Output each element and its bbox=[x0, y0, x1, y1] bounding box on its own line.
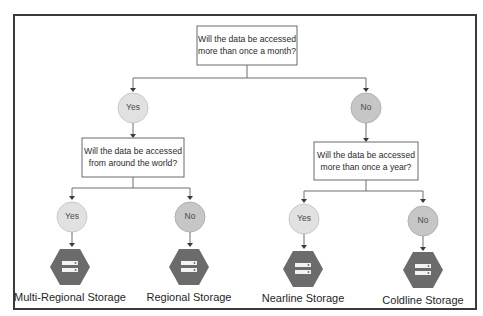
leaf-multi-regional-yes-node: Yes bbox=[57, 202, 87, 232]
leaf-nearline-yes-node: Yes bbox=[289, 204, 319, 234]
leaf-regional-answer: No bbox=[185, 211, 196, 221]
year-question-line2: more than once a year? bbox=[321, 162, 412, 172]
world-question-box: Will the data be accessed from around th… bbox=[82, 138, 184, 177]
label-nearline-storage: Nearline Storage bbox=[262, 292, 345, 304]
root-question-line2: more than once a month? bbox=[198, 46, 296, 56]
storage-decision-tree: Will the data be accessed more than once… bbox=[0, 0, 483, 316]
label-multi-regional-storage: Multi-Regional Storage bbox=[14, 291, 126, 303]
leaf-nearline-answer: Yes bbox=[297, 213, 311, 223]
year-question-line1: Will the data be accessed bbox=[317, 150, 415, 160]
branch-no-label: No bbox=[361, 102, 372, 112]
label-regional-storage: Regional Storage bbox=[146, 291, 231, 303]
root-question-line1: Will the data be accessed bbox=[198, 34, 296, 44]
leaf-coldline-answer: No bbox=[418, 215, 429, 225]
world-question-line2: from around the world? bbox=[89, 158, 178, 168]
world-question-line1: Will the data be accessed bbox=[84, 146, 182, 156]
leaf-coldline-no-node: No bbox=[408, 206, 438, 236]
leaf-regional-no-node: No bbox=[175, 202, 205, 232]
branch-no-node: No bbox=[351, 93, 381, 123]
branch-yes-label: Yes bbox=[126, 102, 140, 112]
label-coldline-storage: Coldline Storage bbox=[382, 294, 463, 306]
leaf-multi-regional-answer: Yes bbox=[65, 211, 79, 221]
root-question-box: Will the data be accessed more than once… bbox=[197, 26, 297, 65]
year-question-box: Will the data be accessed more than once… bbox=[314, 142, 418, 180]
branch-yes-node: Yes bbox=[118, 93, 148, 123]
